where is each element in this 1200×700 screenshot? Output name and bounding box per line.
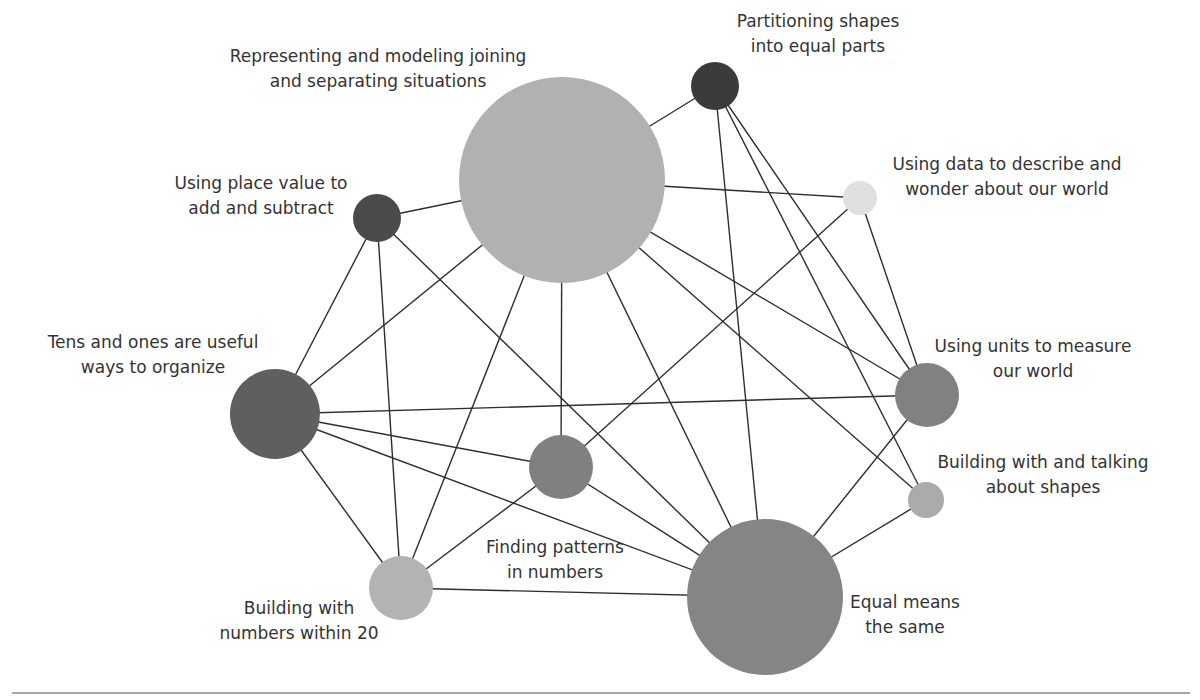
node-label-line: add and subtract: [188, 198, 334, 218]
node-label-data: Using data to describe andwonder about o…: [893, 154, 1122, 199]
node-label-line: about shapes: [986, 477, 1101, 497]
concept-network-diagram: Representing and modeling joiningand sep…: [0, 0, 1200, 700]
node-label-line: Equal means: [850, 592, 960, 612]
node-equal: [687, 519, 843, 675]
node-label-line: our world: [993, 361, 1073, 381]
node-label-line: Using units to measure: [935, 336, 1132, 356]
node-label-equal: Equal meansthe same: [850, 592, 960, 637]
edge-place-value-to-building20: [377, 218, 401, 588]
node-data: [843, 181, 877, 215]
node-representing: [459, 77, 665, 283]
node-label-partitioning: Partitioning shapesinto equal parts: [737, 11, 900, 56]
node-label-patterns: Finding patternsin numbers: [486, 537, 624, 582]
edge-tens-ones-to-units: [275, 395, 927, 414]
node-label-line: Building with: [244, 598, 354, 618]
node-tens-ones: [230, 369, 320, 459]
node-label-line: and separating situations: [270, 71, 487, 91]
node-label-line: numbers within 20: [219, 623, 378, 643]
node-label-tens-ones: Tens and ones are usefulways to organize: [47, 332, 259, 377]
node-shapes: [908, 482, 944, 518]
node-label-line: Using place value to: [174, 173, 347, 193]
edge-partitioning-to-units: [715, 86, 927, 395]
node-patterns: [529, 435, 593, 499]
node-label-shapes: Building with and talkingabout shapes: [937, 452, 1148, 497]
node-label-units: Using units to measureour world: [935, 336, 1132, 381]
node-label-line: Building with and talking: [937, 452, 1148, 472]
node-label-line: Finding patterns: [486, 537, 624, 557]
node-building20: [369, 556, 433, 620]
node-label-representing: Representing and modeling joiningand sep…: [230, 46, 527, 91]
edge-partitioning-to-shapes: [715, 86, 926, 500]
node-label-place-value: Using place value toadd and subtract: [174, 173, 347, 218]
node-label-line: in numbers: [507, 562, 603, 582]
node-label-line: the same: [865, 617, 945, 637]
node-label-line: Representing and modeling joining: [230, 46, 527, 66]
node-label-line: wonder about our world: [905, 179, 1109, 199]
node-label-building20: Building withnumbers within 20: [219, 598, 378, 643]
node-place-value: [353, 194, 401, 242]
node-partitioning: [691, 62, 739, 110]
nodes-layer: [230, 62, 959, 675]
node-label-line: Tens and ones are useful: [47, 332, 259, 352]
node-label-line: ways to organize: [81, 357, 225, 377]
node-label-line: Using data to describe and: [893, 154, 1122, 174]
node-units: [895, 363, 959, 427]
node-label-line: Partitioning shapes: [737, 11, 900, 31]
node-label-line: into equal parts: [751, 36, 885, 56]
